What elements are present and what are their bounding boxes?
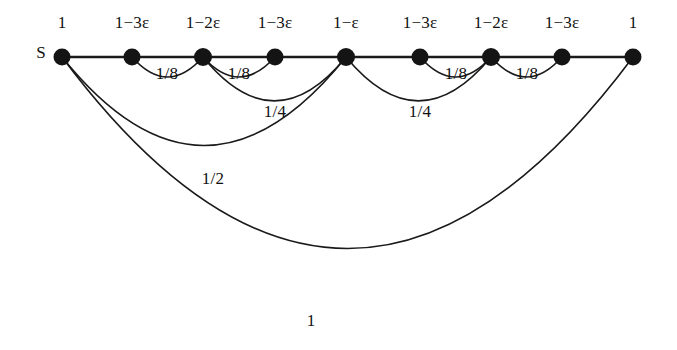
graph-node[interactable] — [267, 49, 284, 66]
graph-node[interactable] — [412, 49, 429, 66]
edge-weight-label: 1/2 — [202, 170, 224, 187]
edge-weight-label: 1/8 — [516, 65, 538, 82]
graph-node[interactable] — [337, 48, 355, 66]
arc-edge — [62, 57, 346, 145]
node-value-label: 1−2ε — [186, 14, 221, 31]
node-value-label: 1−3ε — [258, 14, 293, 31]
source-node-label: S — [36, 44, 46, 61]
node-value-label: 1−3ε — [545, 14, 580, 31]
graph-node[interactable] — [124, 49, 141, 66]
node-value-label: 1−3ε — [403, 14, 438, 31]
graph-node[interactable] — [625, 49, 642, 66]
edge-weight-label: 1 — [307, 312, 316, 329]
graph-node[interactable] — [194, 48, 212, 66]
arc-edges-layer — [62, 57, 633, 249]
graph-canvas — [0, 0, 677, 350]
node-value-label: 1−ε — [333, 14, 359, 31]
node-value-label: 1 — [58, 14, 67, 31]
node-value-label: 1 — [629, 14, 638, 31]
edge-weight-label: 1/4 — [409, 103, 431, 120]
edge-weight-label: 1/8 — [228, 65, 250, 82]
edge-weight-label: 1/8 — [445, 65, 467, 82]
graph-node[interactable] — [482, 48, 500, 66]
arc-edge — [62, 57, 633, 249]
node-value-label: 1−2ε — [474, 14, 509, 31]
edge-weight-label: 1/4 — [264, 103, 286, 120]
node-value-label: 1−3ε — [115, 14, 150, 31]
edge-weight-label: 1/8 — [156, 65, 178, 82]
graph-node[interactable] — [54, 49, 71, 66]
graph-figure: 11−3ε1−2ε1−3ε1−ε1−3ε1−2ε1−3ε11/81/81/81/… — [0, 0, 677, 350]
graph-node[interactable] — [554, 49, 571, 66]
